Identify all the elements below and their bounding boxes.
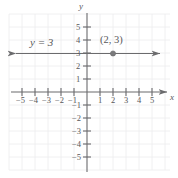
x-tick-label-neg5: −5	[16, 96, 25, 105]
coordinate-plane-figure: y x −5 −4 −3 −2 −1 1 2 3 4 5 5 4 3 2 1 −…	[0, 0, 178, 178]
x-tick-label-pos4: 4	[137, 96, 141, 105]
y-tick-label-pos2: 2	[76, 62, 80, 71]
y-tick-label-neg2: −2	[72, 114, 81, 123]
line-equation-label: y = 3	[30, 37, 53, 48]
point-coordinate-label: (2, 3)	[100, 35, 123, 46]
x-tick-label-pos3: 3	[124, 96, 128, 105]
y-tick-label-pos5: 5	[76, 23, 80, 32]
y-axis-label: y	[79, 2, 83, 11]
plotted-point-2-3	[110, 51, 115, 56]
x-axis-label: x	[170, 93, 174, 102]
x-tick-label-neg3: −3	[42, 96, 51, 105]
y-tick-label-pos4: 4	[76, 36, 80, 45]
x-tick-label-pos1: 1	[98, 96, 102, 105]
graph-canvas	[0, 0, 178, 178]
x-tick-label-neg4: −4	[29, 96, 38, 105]
y-tick-label-neg4: −4	[72, 140, 81, 149]
x-tick-label-pos2: 2	[111, 96, 115, 105]
x-tick-label-pos5: 5	[150, 96, 154, 105]
y-tick-label-pos1: 1	[76, 75, 80, 84]
y-tick-label-pos3: 3	[76, 49, 80, 58]
y-tick-label-neg3: −3	[72, 127, 81, 136]
y-tick-label-neg1: −1	[72, 101, 81, 110]
y-tick-label-neg5: −5	[72, 153, 81, 162]
x-tick-label-neg2: −2	[55, 96, 64, 105]
